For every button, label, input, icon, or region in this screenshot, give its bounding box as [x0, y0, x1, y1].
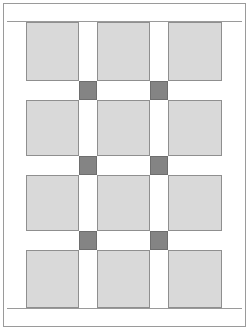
- sashing-cornerstone: [79, 231, 97, 250]
- sashing-cornerstone: [150, 156, 168, 175]
- quilt-block: [26, 175, 79, 231]
- sashing-cornerstone: [150, 81, 168, 100]
- quilt-block: [168, 175, 222, 231]
- quilt-block: [97, 22, 150, 81]
- quilt-block: [26, 100, 79, 156]
- quilt-block: [168, 250, 222, 308]
- sashing-cornerstone: [79, 81, 97, 100]
- quilt-block: [168, 22, 222, 81]
- quilt-field: [26, 22, 222, 308]
- quilt-diagram: [0, 0, 249, 333]
- sashing-cornerstone: [150, 231, 168, 250]
- quilt-block: [97, 100, 150, 156]
- quilt-block: [168, 100, 222, 156]
- quilt-block: [97, 250, 150, 308]
- quilt-block: [26, 250, 79, 308]
- quilt-block: [97, 175, 150, 231]
- sashing-cornerstone: [79, 156, 97, 175]
- quilt-block: [26, 22, 79, 81]
